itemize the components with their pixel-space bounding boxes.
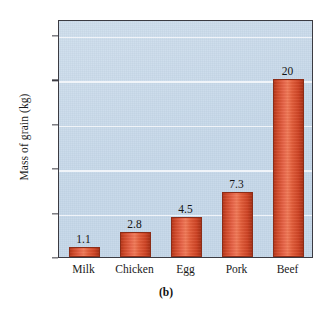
x-tick-label: Chicken [115,263,153,275]
bar-texture [70,248,99,256]
bar [171,217,202,257]
x-tick-label: Beef [277,263,299,275]
bar-texture [223,193,252,256]
x-tick-label: Pork [226,263,248,275]
bar-texture [172,218,201,256]
bar-value-label: 1.1 [76,233,90,245]
bar [120,232,151,257]
x-tick-label: Milk [72,263,94,275]
gridline [59,37,312,39]
bar-texture [121,233,150,256]
bar-chart-figure: Mass of grain (kg) 0510152025 MilkChicke… [0,0,332,311]
bar-value-label: 2.8 [127,218,141,230]
y-axis-title: Mass of grain (kg) [18,72,30,202]
plot-area [58,20,313,258]
bar-value-label: 4.5 [178,203,192,215]
bar-value-label: 7.3 [229,178,243,190]
bar [273,79,304,257]
bar [69,247,100,257]
bar-value-label: 20 [282,65,294,77]
figure-caption: (b) [0,286,332,298]
bar [222,192,253,257]
x-tick-label: Egg [176,263,195,275]
bar-texture [274,80,303,256]
